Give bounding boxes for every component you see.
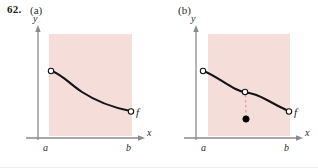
- figure-graphics: y x a b f y x: [0, 0, 318, 168]
- bottom-divider: [0, 167, 318, 168]
- panel-b-open-point-left: [200, 68, 205, 73]
- panel-b-x-axis-arrow: [296, 135, 303, 140]
- panel-b-tick-b: b: [284, 142, 289, 153]
- panel-a-y-axis-arrow: [35, 25, 40, 32]
- panel-a-x-axis-label: x: [146, 127, 152, 138]
- panel-a-tick-b: b: [126, 142, 131, 153]
- panel-a-function-label: f: [136, 106, 141, 118]
- panel-b-function-label: f: [294, 106, 299, 118]
- panel-b-graph: y x a b f: [184, 13, 310, 153]
- panel-b-y-axis-label: y: [190, 13, 196, 24]
- panel-a-x-axis-arrow: [138, 135, 145, 140]
- figure-container: 62. (a) (b) y x a b f: [0, 0, 318, 168]
- panel-a-tick-a: a: [43, 142, 48, 153]
- panel-b-tick-a: a: [201, 142, 206, 153]
- panel-a-graph: y x a b f: [26, 13, 152, 153]
- panel-b-x-axis-label: x: [304, 127, 310, 138]
- panel-b-closed-point: [243, 116, 249, 122]
- panel-a-y-axis-label: y: [32, 13, 38, 24]
- panel-a-open-point-right: [128, 109, 133, 114]
- panel-b-open-point-discontinuity: [242, 89, 247, 94]
- panel-a-shaded-region: [49, 34, 132, 136]
- panel-b-open-point-right: [286, 109, 291, 114]
- panel-b-y-axis-arrow: [193, 25, 198, 32]
- panel-a-open-point-left: [48, 68, 53, 73]
